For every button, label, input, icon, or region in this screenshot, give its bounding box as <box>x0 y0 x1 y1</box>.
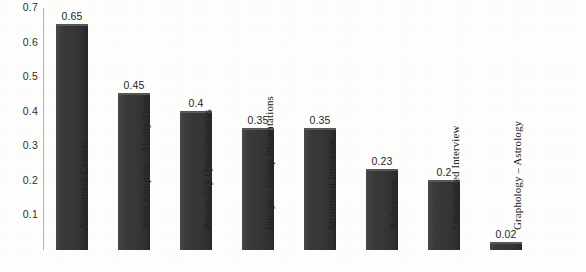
category-label: Assessment Centres <box>77 140 89 230</box>
bar[interactable] <box>490 242 522 250</box>
bar-group[interactable]: 0.23References <box>358 249 420 250</box>
bar-value-label: 0.35 <box>298 114 342 126</box>
y-axis-tick-0-2: 0.2 <box>8 175 38 186</box>
bar-value-label: 0.45 <box>112 79 156 91</box>
category-label: Work Samples – Ability Tests <box>139 96 151 230</box>
y-axis-tick-0-7: 0.7 <box>8 2 38 13</box>
y-axis-tick-0-5: 0.5 <box>8 71 38 82</box>
category-label: Personality Questionnaires <box>201 109 213 230</box>
bar-group[interactable]: 0.02Graphology – Astrology <box>482 249 544 250</box>
bar-group[interactable]: 0.4Personality Questionnaires <box>172 249 234 250</box>
bar-group[interactable]: 0.65Assessment Centres <box>48 249 110 250</box>
y-axis-line <box>43 8 44 250</box>
bar-value-label: 0.4 <box>174 97 218 109</box>
bar-group[interactable]: 0.35Structured Interview <box>296 249 358 250</box>
bar-group[interactable]: 0.35Intrays – Group Presentations <box>234 249 296 250</box>
category-label: Intrays – Group Presentations <box>263 96 275 230</box>
category-label: Unstructured Interview <box>449 125 461 230</box>
y-axis-tick-0-3: 0.3 <box>8 140 38 151</box>
category-label: Graphology – Astrology <box>511 121 523 230</box>
bar-group[interactable]: 0.2Unstructured Interview <box>420 249 482 250</box>
bar-group[interactable]: 0.45Work Samples – Ability Tests <box>110 249 172 250</box>
plot-area: 0.10.20.30.40.50.60.7 0.65Assessment Cen… <box>0 0 586 272</box>
y-axis-tick-0-6: 0.6 <box>8 37 38 48</box>
bar-value-label: 0.65 <box>50 10 94 22</box>
y-axis-tick-labels: 0.10.20.30.40.50.60.7 <box>0 0 38 272</box>
bar-value-label: 0.23 <box>360 155 404 167</box>
category-label: Structured Interview <box>325 137 337 230</box>
y-axis-tick-0-1: 0.1 <box>8 209 38 220</box>
bar-chart: 0.10.20.30.40.50.60.7 0.65Assessment Cen… <box>0 0 586 272</box>
y-axis-tick-0-4: 0.4 <box>8 106 38 117</box>
category-label: References <box>387 180 399 230</box>
